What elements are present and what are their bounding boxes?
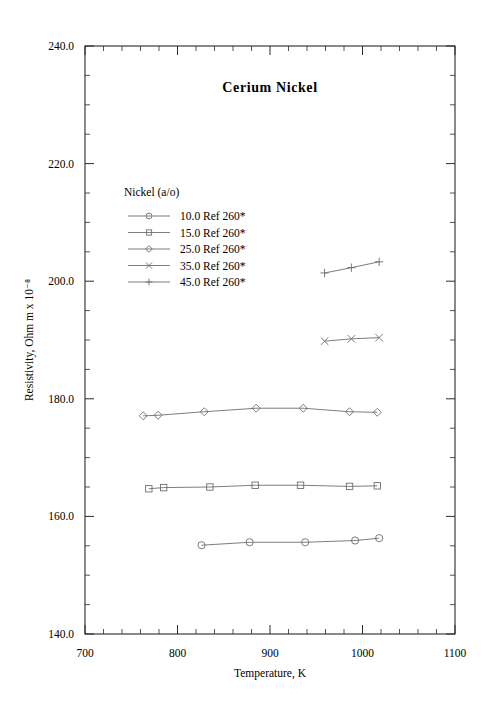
figure-background <box>0 0 487 708</box>
legend-item-label: 45.0 Ref 260* <box>180 276 246 288</box>
legend-heading: Nickel (a/o) <box>124 186 179 199</box>
legend-item-label: 10.0 Ref 260* <box>180 210 246 222</box>
chart-figure: 140.0160.0180.0200.0220.0240.0 700800900… <box>0 0 487 708</box>
x-axis-title: Temperature, K <box>234 667 307 680</box>
x-tick-label: 1000 <box>351 647 374 659</box>
legend-item-label: 25.0 Ref 260* <box>180 243 246 255</box>
y-axis-title: Resistivity, Ohm m x 10⁻⁸ <box>23 279 36 401</box>
y-tick-label: 180.0 <box>48 393 74 405</box>
legend-item-label: 35.0 Ref 260* <box>180 260 246 272</box>
y-tick-label: 140.0 <box>48 628 74 640</box>
legend-item-label: 15.0 Ref 260* <box>180 227 246 239</box>
y-tick-label: 240.0 <box>48 40 74 52</box>
x-tick-label: 1100 <box>444 647 467 659</box>
y-tick-label: 160.0 <box>48 510 74 522</box>
y-tick-label: 200.0 <box>48 275 74 287</box>
y-tick-label: 220.0 <box>48 158 74 170</box>
chart-title: Cerium Nickel <box>222 80 317 95</box>
x-tick-label: 800 <box>169 647 187 659</box>
x-tick-label: 900 <box>261 647 279 659</box>
x-tick-label: 700 <box>76 647 94 659</box>
